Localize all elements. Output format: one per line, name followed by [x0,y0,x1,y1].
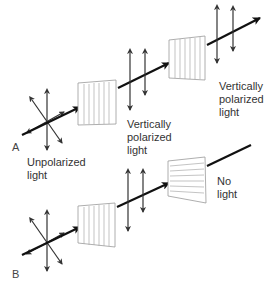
vertical-polarizer-filter [169,36,205,80]
panel-label-b: B [12,268,19,280]
vertical-polarizer-filter [78,203,115,247]
light-beam [207,145,251,166]
label-vertically-polarized-light-2: Vertically polarized light [219,80,264,119]
vertical-polarizer-filter [78,80,116,125]
panel-label-a: A [12,141,19,153]
light-beam [22,107,80,135]
horizontal-polarizer-filter [168,157,206,203]
label-no-light: No light [217,175,237,201]
label-vertically-polarized-light-1: Vertically polarized light [127,118,172,157]
light-beam [118,63,169,88]
label-unpolarized-light: Unpolarized light [27,156,86,182]
light-beam [22,227,80,255]
unpolarized-light-icon [30,93,64,150]
